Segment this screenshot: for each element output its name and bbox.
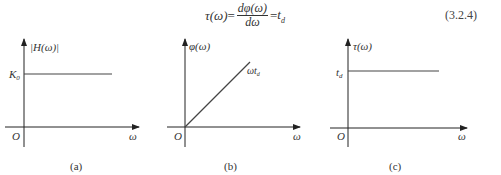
y-axis-label: |H(ω)| [30,41,59,54]
caption-c: (c) [389,160,402,173]
panel-b-phase: φ(ω) ωtd O ω (b) [167,39,301,173]
x-axis-label: ω [458,130,466,142]
y-axis-label: τ(ω) [353,40,372,53]
origin-label: O [174,130,182,142]
x-axis-label: ω [129,130,137,142]
x-axis-label: ω [293,130,301,142]
origin-label: O [337,130,345,142]
line-label: ωtd [247,65,261,77]
caption-a: (a) [70,160,83,173]
y-axis-label: φ(ω) [189,40,211,53]
figure-panels: |H(ω)| K0 O ω (a) φ(ω) ωtd O ω (b) τ(ω) … [0,0,501,175]
caption-b: (b) [224,160,237,173]
panel-c-group-delay: τ(ω) td O ω (c) [330,39,467,173]
origin-label: O [12,130,20,142]
phase-line [185,62,250,127]
panel-a-magnitude: |H(ω)| K0 O ω (a) [5,39,139,173]
level-label: K0 [8,68,20,82]
level-label: td [336,66,343,80]
